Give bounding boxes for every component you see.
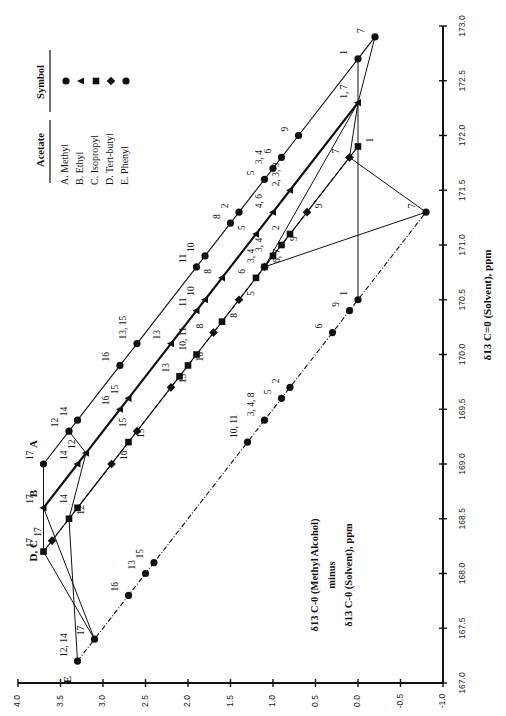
- series-d: 17161513853, 497: [33, 148, 354, 545]
- legend-entry-label: B. Ethyl: [74, 151, 85, 185]
- x-tick-label: 169.5: [457, 398, 467, 420]
- point-label: 1: [339, 50, 349, 55]
- circle-marker-icon: [286, 384, 293, 391]
- point-label: 7: [407, 203, 417, 208]
- legend-header-acetate: Acetate: [35, 133, 46, 167]
- x-axis-title: δ13 C=0 (Solvent), ppm: [481, 250, 494, 361]
- point-label: 3, 4: [246, 248, 256, 263]
- legend-entry-label: C. Isopropyl: [89, 135, 100, 185]
- point-label: 7: [356, 28, 366, 33]
- circle-marker-icon: [261, 176, 268, 183]
- circle-marker-icon: [371, 33, 378, 40]
- annotation-line-1: δ13 C-0 (Methyl Alcohol): [309, 518, 321, 632]
- point-label: 2: [220, 203, 230, 208]
- circle-marker-icon: [329, 329, 336, 336]
- triangle-marker-icon: [77, 77, 84, 84]
- y-tick-label: -1.0: [437, 693, 447, 708]
- point-label: 6: [237, 269, 247, 274]
- circle-marker-icon: [150, 559, 157, 566]
- circle-marker-icon: [278, 395, 285, 402]
- point-label: 4, 6: [254, 194, 264, 209]
- point-label: 9: [331, 302, 341, 307]
- point-label: 8: [229, 313, 239, 318]
- point-label: 17: [25, 450, 35, 460]
- point-label: 6: [263, 148, 273, 153]
- circle-marker-icon: [346, 307, 353, 314]
- x-tick-label: 172.5: [457, 70, 467, 92]
- series-a: 1712141613, 1511108253, 46917: [25, 28, 379, 468]
- square-marker-icon: [40, 548, 47, 555]
- circle-marker-icon: [261, 417, 268, 424]
- legend-header-symbol: Symbol: [35, 65, 46, 99]
- point-label: 2: [271, 225, 281, 230]
- annotation-line-3: δ13 C-0 (Solvent), ppm: [343, 523, 355, 627]
- y-tick-label: 0.5: [310, 695, 320, 707]
- circle-marker-icon: [354, 296, 361, 303]
- x-tick-label: 168.5: [457, 508, 467, 530]
- legend-entry-label: D. Tert-butyl: [104, 133, 115, 185]
- data-series: 1712141613, 1511108253, 4691717141216151…: [25, 28, 430, 683]
- x-tick-label: 167.0: [457, 672, 467, 694]
- circle-marker-icon: [244, 439, 251, 446]
- circle-marker-icon: [74, 658, 81, 665]
- point-label: 5: [246, 291, 256, 296]
- circle-marker-icon: [354, 55, 361, 62]
- inner-annotation: δ13 C-0 (Methyl Alcohol)minusδ13 C-0 (So…: [309, 518, 355, 632]
- x-tick-label: 173.0: [457, 15, 467, 37]
- point-label: 10: [186, 242, 196, 252]
- circle-marker-icon: [235, 209, 242, 216]
- point-label: 14: [59, 450, 69, 460]
- circle-marker-icon: [295, 132, 302, 139]
- circle-marker-icon: [201, 252, 208, 259]
- legend-entry-label: E. Phenyl: [119, 146, 130, 185]
- point-label: 12, 14: [59, 633, 69, 657]
- point-label: 5: [246, 170, 256, 175]
- point-label: 12: [67, 439, 77, 449]
- point-label: 6: [314, 324, 324, 329]
- point-label: 13: [152, 330, 162, 340]
- y-tick-label: -0.5: [395, 693, 405, 708]
- circle-marker-icon: [133, 340, 140, 347]
- point-label: 8: [212, 214, 222, 219]
- point-label: 3, 4, 8: [246, 392, 256, 416]
- series-letter-label: A: [27, 440, 39, 448]
- point-label: 11: [178, 254, 188, 263]
- chart-legend: AcetateSymbolA. MethylB. EthylC. Isoprop…: [35, 50, 130, 185]
- point-label: 15: [110, 385, 120, 395]
- chart-axes: 4.03.53.02.52.01.51.00.50.0-0.5-1.0167.0…: [12, 15, 493, 708]
- point-label: 17: [76, 625, 86, 635]
- circle-marker-icon: [193, 263, 200, 270]
- circle-marker-icon: [125, 592, 132, 599]
- series-letter-label: D, C: [27, 540, 39, 561]
- point-label: 13: [178, 374, 188, 384]
- point-label: 12: [50, 417, 60, 427]
- x-tick-label: 167.5: [457, 617, 467, 639]
- circle-marker-icon: [227, 220, 234, 227]
- x-tick-label: 170.5: [457, 289, 467, 311]
- y-tick-label: 3.0: [97, 695, 107, 707]
- point-label: 5: [237, 225, 247, 230]
- point-label: 14: [59, 494, 69, 504]
- connector-line: [44, 552, 95, 640]
- x-tick-label: 171.0: [457, 234, 467, 256]
- square-marker-icon: [355, 143, 362, 150]
- circle-marker-icon: [65, 428, 72, 435]
- point-label: 10, 11: [229, 414, 239, 438]
- point-label: 17: [33, 527, 43, 537]
- connector-line: [358, 37, 375, 103]
- point-label: 13, 15: [118, 316, 128, 340]
- point-label: 9: [314, 203, 324, 208]
- circle-marker-icon: [74, 417, 81, 424]
- connector-line: [44, 508, 95, 639]
- connector-lines: [44, 37, 427, 661]
- point-label: 13: [127, 560, 137, 570]
- y-tick-label: 1.0: [267, 695, 277, 707]
- point-label: 15: [118, 417, 128, 427]
- x-tick-label: 168.0: [457, 563, 467, 585]
- circle-marker-icon: [40, 460, 47, 467]
- point-label: 1: [365, 137, 375, 142]
- series-line: [44, 37, 376, 464]
- point-label: 10, 11: [178, 327, 188, 351]
- square-marker-icon: [93, 78, 100, 85]
- point-label: 16: [101, 396, 111, 406]
